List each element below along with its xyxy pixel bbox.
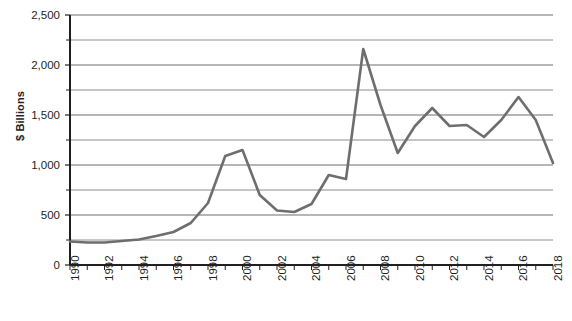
x-axis-tick-label: 1992 — [103, 255, 115, 281]
x-axis-tick-label: 2004 — [310, 255, 322, 281]
chart-container: $ Billions 05001,0001,5002,0002,500 1990… — [0, 0, 572, 321]
x-axis-tick-label: 1996 — [172, 255, 184, 281]
x-axis-tick-label: 2006 — [345, 255, 357, 281]
x-axis-tick-label: 2010 — [414, 255, 426, 281]
x-axis-tick-label: 2000 — [241, 255, 253, 281]
x-axis-tick-label: 2012 — [448, 255, 460, 281]
x-axis-tick-label: 2014 — [483, 255, 495, 281]
x-axis-tick-label: 1994 — [138, 255, 150, 281]
x-axis-tick-label: 2016 — [517, 255, 529, 281]
x-axis-tick-label: 2002 — [276, 255, 288, 281]
x-axis-tick-label: 2018 — [552, 255, 564, 281]
data-series-line — [70, 49, 553, 243]
x-axis-tick-label: 1998 — [207, 255, 219, 281]
x-axis-tick-label: 2008 — [379, 255, 391, 281]
x-axis-tick-label: 1990 — [69, 255, 81, 281]
